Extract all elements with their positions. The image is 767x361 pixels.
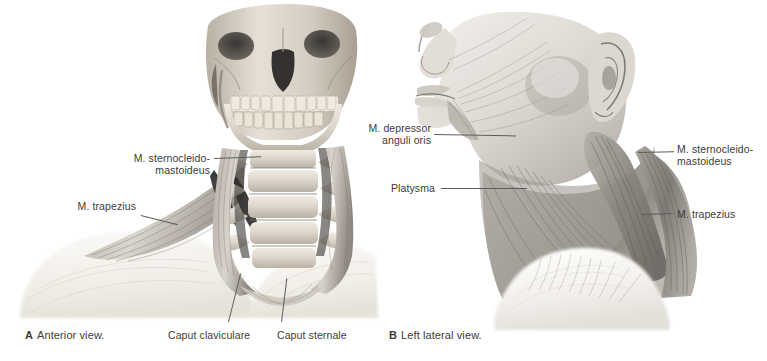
label-caput-sternale: Caput sternale bbox=[277, 329, 373, 341]
label-m-sternocleidomastoideus-a: M. sternocleido- mastoideus bbox=[32, 152, 210, 177]
label-m-sternocleidomastoideus-b: M. sternocleido- mastoideus bbox=[677, 143, 767, 168]
label-m-trapezius-a: M. trapezius bbox=[12, 200, 136, 212]
label-platysma: Platysma bbox=[353, 182, 435, 194]
panel-left-lateral-view: M. depressor anguli oris Platysma M. ste… bbox=[383, 0, 767, 361]
caption-panel-a: AAnterior view. bbox=[25, 329, 104, 341]
panel-anterior-view: M. sternocleido- mastoideus M. trapezius… bbox=[0, 0, 383, 361]
label-m-trapezius-b: M. trapezius bbox=[677, 208, 767, 220]
leader-platysma bbox=[441, 188, 527, 189]
caption-letter-a: A bbox=[25, 329, 33, 341]
caption-text-a: Anterior view. bbox=[37, 329, 104, 341]
anatomy-plate: M. sternocleido- mastoideus M. trapezius… bbox=[0, 0, 767, 361]
label-m-depressor-anguli-oris: M. depressor anguli oris bbox=[347, 122, 431, 147]
label-caput-claviculare: Caput claviculare bbox=[168, 329, 268, 341]
caption-text-b: Left lateral view. bbox=[401, 329, 482, 341]
ear-auricle bbox=[588, 32, 635, 122]
caption-panel-b: BLeft lateral view. bbox=[389, 329, 482, 341]
caption-letter-b: B bbox=[389, 329, 397, 341]
parotid-highlight bbox=[531, 58, 579, 98]
